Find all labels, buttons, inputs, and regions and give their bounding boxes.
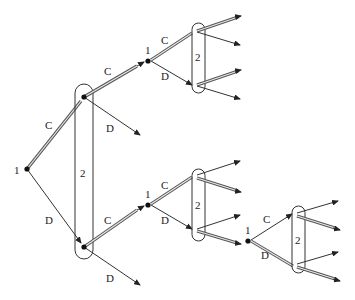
node-p2-lower [81,244,86,249]
edge-top-upper-D [197,32,240,45]
label-top-C: C [161,34,168,46]
label-upper-C: C [104,65,111,77]
label-top-player: 1 [145,44,151,56]
edge-mid-lower-D [197,231,237,243]
edge-third-D [251,241,293,266]
edge-top-C [151,33,192,60]
edge-third-C [251,214,292,240]
edge-root-C [27,101,81,169]
node-stage2-top [145,58,150,63]
label-root-C: C [45,119,52,131]
label-lower-C: C [104,214,111,226]
edge-mid-C [151,177,192,204]
edge-mid-upper-D [197,178,238,191]
label-mid-C: C [161,179,168,191]
edge-top-D [151,61,192,85]
edge-mid-D [151,205,192,229]
label-mid-D: D [161,214,169,226]
edge-top-lower-C [197,71,238,85]
edge-root-D [27,169,81,243]
label-top-info-set: 2 [195,51,201,63]
edge-third-lower-C [297,252,338,264]
label-info-set-1: 2 [80,167,86,179]
label-third-C: C [263,213,270,225]
edge-third-upper-D [297,216,335,228]
label-root-D: D [45,214,53,226]
node-stage2-mid [145,202,150,207]
edge-third-lower-D [297,267,335,279]
label-mid-info-set: 2 [195,199,201,211]
label-lower-D: D [106,272,114,284]
game-tree-diagram: 1 C D 2 C D C D 1 C D 2 1 C D 2 1 C D 2 [0,0,355,300]
edge-third-upper-C [297,201,338,213]
node-root [24,166,29,171]
edge-top-upper-C [197,17,238,31]
node-stage3 [245,238,250,243]
label-upper-D: D [106,122,114,134]
label-third-player: 1 [245,224,251,236]
label-root-player: 1 [14,164,20,176]
edge-top-lower-D [197,86,240,99]
edge-mid-lower-C [197,215,240,229]
arrow-lower-C [137,206,144,210]
label-top-D: D [161,70,169,82]
edge-mid-upper-C [197,161,240,175]
label-third-D: D [261,249,269,261]
label-mid-player: 1 [145,188,151,200]
arrow-upper-C [137,62,144,66]
label-third-info-set: 2 [295,234,301,246]
node-p2-upper [81,94,86,99]
